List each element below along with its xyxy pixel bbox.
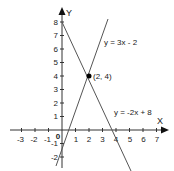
x-tick-label: 6 [141, 135, 146, 144]
x-tick-label: 1 [74, 135, 79, 144]
equation-label-line2: y = -2x + 8 [114, 108, 152, 117]
y-axis-label: Y [66, 8, 72, 18]
x-tick-label: 7 [155, 135, 160, 144]
x-tick-label: 3 [100, 135, 105, 144]
x-tick-label: 5 [128, 135, 133, 144]
y-tick-label: 3 [54, 85, 59, 94]
y-tick-label: 7 [54, 31, 59, 40]
y-tick-labels: 8 7 6 5 4 3 2 1 -1 -2 [51, 18, 59, 162]
y-tick-label: -1 [51, 139, 59, 148]
x-axis-label: X [157, 116, 163, 126]
y-tick-label: -2 [51, 153, 59, 162]
x-tick-label: -2 [30, 135, 38, 144]
y-tick-label: 4 [54, 72, 59, 81]
x-axis-arrow-icon [161, 127, 169, 134]
y-tick-label: 6 [54, 45, 59, 54]
y-tick-label: 8 [54, 18, 59, 27]
equation-label-line1: y = 3x - 2 [104, 38, 138, 47]
y-tick-label: 5 [54, 58, 59, 67]
y-axis-arrow-icon [59, 7, 66, 15]
x-tick-label: -3 [17, 135, 25, 144]
graph-canvas: -3 -2 -1 1 2 3 4 5 6 7 0 8 7 6 5 4 3 2 1… [0, 0, 174, 171]
y-tick-label: 2 [54, 99, 59, 108]
x-tick-labels: -3 -2 -1 1 2 3 4 5 6 7 [17, 135, 160, 144]
intersection-point-icon [87, 74, 92, 79]
y-tick-label: 1 [54, 112, 59, 121]
intersection-label: (2, 4) [93, 72, 112, 81]
x-tick-label: 2 [87, 135, 92, 144]
